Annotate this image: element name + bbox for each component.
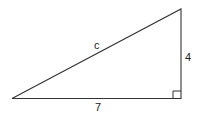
triangle-diagram: c 4 7 [0, 0, 199, 115]
triangle-shape [12, 9, 181, 99]
horizontal-leg-label: 7 [95, 102, 101, 113]
hypotenuse-label: c [94, 40, 100, 51]
triangle-figure [0, 0, 199, 115]
vertical-leg-label: 4 [185, 52, 191, 63]
right-angle-marker [173, 91, 181, 99]
